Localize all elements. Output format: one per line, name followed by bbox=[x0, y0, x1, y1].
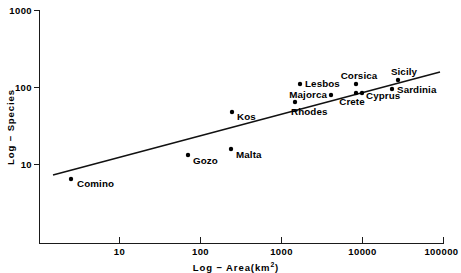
x-tick-label-10000: 10000 bbox=[348, 246, 376, 257]
point-label-cyprus: Cyprus bbox=[366, 90, 401, 101]
data-point-group: Comino Gozo Malta Kos Rhodes Majorca bbox=[69, 66, 437, 189]
marker-cyprus[interactable] bbox=[360, 91, 364, 95]
y-axis-title: Log − Species bbox=[5, 89, 16, 165]
marker-sardinia[interactable] bbox=[390, 87, 394, 91]
marker-kos[interactable] bbox=[230, 110, 234, 114]
y-tick-label-100: 100 bbox=[15, 82, 32, 93]
marker-majorca[interactable] bbox=[329, 93, 333, 97]
marker-gozo[interactable] bbox=[186, 153, 190, 157]
data-point-corsica[interactable]: Corsica bbox=[341, 70, 378, 86]
marker-corsica[interactable] bbox=[354, 82, 358, 86]
svg-text:Log − Area(km2): Log − Area(km2) bbox=[193, 261, 279, 273]
data-point-gozo[interactable]: Gozo bbox=[186, 153, 218, 166]
point-label-lesbos: Lesbos bbox=[305, 78, 340, 89]
point-label-crete: Crete bbox=[339, 96, 365, 107]
x-tick-label-100: 100 bbox=[192, 246, 209, 257]
data-point-cyprus[interactable]: Cyprus bbox=[360, 90, 401, 101]
axis-group bbox=[40, 11, 444, 244]
x-axis-title: Log − Area(km2) bbox=[193, 261, 279, 273]
data-point-kos[interactable]: Kos bbox=[230, 110, 256, 122]
species-area-chart-figure: 1000 100 10 10 100 1000 10000 100000 Log… bbox=[0, 0, 461, 273]
point-label-majorca: Majorca bbox=[289, 89, 327, 100]
data-point-majorca[interactable]: Majorca bbox=[289, 89, 333, 100]
marker-sicily[interactable] bbox=[396, 78, 400, 82]
data-point-sardinia[interactable]: Sardinia bbox=[390, 84, 437, 95]
x-axis-title-base: Log − Area(km bbox=[193, 262, 271, 273]
marker-lesbos[interactable] bbox=[298, 82, 302, 86]
data-point-lesbos[interactable]: Lesbos bbox=[298, 78, 341, 89]
x-tick-label-10: 10 bbox=[114, 246, 125, 257]
point-label-kos: Kos bbox=[237, 111, 256, 122]
data-point-malta[interactable]: Malta bbox=[229, 147, 262, 160]
marker-rhodes[interactable] bbox=[293, 100, 297, 104]
marker-crete[interactable] bbox=[354, 91, 358, 95]
y-tick-label-1000: 1000 bbox=[9, 5, 32, 16]
y-tick-label-10: 10 bbox=[21, 159, 32, 170]
point-label-gozo: Gozo bbox=[193, 155, 218, 166]
point-label-sicily: Sicily bbox=[391, 66, 418, 77]
data-point-comino[interactable]: Comino bbox=[69, 177, 114, 189]
point-label-corsica: Corsica bbox=[341, 70, 378, 81]
chart-canvas: 1000 100 10 10 100 1000 10000 100000 Log… bbox=[0, 0, 461, 273]
x-tick-group: 10 100 1000 10000 100000 bbox=[114, 237, 459, 257]
point-label-sardinia: Sardinia bbox=[397, 84, 437, 95]
x-tick-label-100000: 100000 bbox=[424, 246, 458, 257]
x-tick-label-1000: 1000 bbox=[270, 246, 293, 257]
point-label-rhodes: Rhodes bbox=[291, 106, 328, 117]
point-label-malta: Malta bbox=[236, 149, 262, 160]
marker-malta[interactable] bbox=[229, 147, 233, 151]
marker-comino[interactable] bbox=[69, 177, 73, 181]
x-axis-title-close: ) bbox=[275, 262, 279, 273]
point-label-comino: Comino bbox=[77, 178, 114, 189]
data-point-rhodes[interactable]: Rhodes bbox=[291, 100, 328, 117]
